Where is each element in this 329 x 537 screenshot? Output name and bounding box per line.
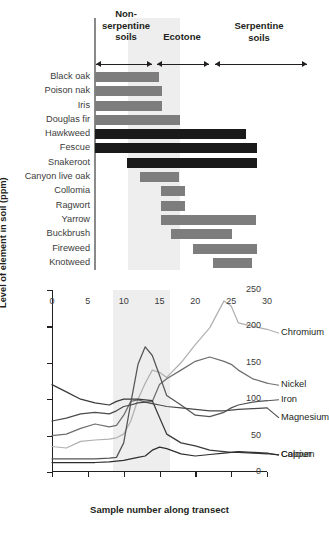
y-tick-label: 200 — [231, 320, 261, 330]
y-tick-label: 250 — [231, 284, 261, 294]
species-label: Iris — [0, 100, 90, 110]
x-tick — [52, 472, 53, 477]
series-line-copper — [52, 447, 267, 462]
x-tick — [88, 472, 89, 477]
y-tick — [47, 326, 52, 327]
species-distribution-panel: Non-serpentinesoils Ecotone Serpentineso… — [0, 0, 322, 280]
x-tick — [195, 472, 196, 477]
species-label: Yarrow — [0, 214, 90, 224]
species-row: Black oak — [0, 70, 322, 84]
species-row: Douglas fir — [0, 113, 322, 127]
series-leader-chromium — [267, 329, 279, 333]
x-tick-label: 0 — [40, 296, 64, 306]
series-leader-nickel — [267, 383, 279, 385]
y-tick — [47, 436, 52, 437]
element-series-lines — [52, 290, 267, 472]
arrow-non-serpentine — [96, 64, 152, 65]
species-row: Fireweed — [0, 242, 322, 256]
zone-label-ecotone: Ecotone — [151, 31, 213, 43]
species-label: Fescue — [0, 142, 90, 152]
species-range-bar — [161, 215, 256, 225]
species-range-bar — [95, 143, 257, 153]
species-range-bar — [193, 244, 257, 254]
species-range-bar — [171, 229, 233, 239]
y-tick-label: 50 — [231, 430, 261, 440]
species-label: Black oak — [0, 71, 90, 81]
x-tick-label: 15 — [148, 296, 172, 306]
zone-extent-arrows — [95, 60, 317, 70]
species-row: Snakeroot — [0, 156, 322, 170]
element-level-panel: Level of element in soil (ppm) Sample nu… — [0, 282, 322, 537]
series-label-nickel: Nickel — [281, 379, 306, 389]
species-range-bar — [95, 86, 162, 96]
x-tick-label: 20 — [183, 296, 207, 306]
y-tick — [47, 399, 52, 400]
species-row: Collomia — [0, 184, 322, 198]
series-label-iron: Iron — [281, 394, 297, 404]
zone-label-non-serpentine: Non-serpentinesoils — [95, 8, 157, 43]
species-label: Hawkweed — [0, 128, 90, 138]
species-label: Ragwort — [0, 200, 90, 210]
species-row: Knotweed — [0, 256, 322, 270]
x-tick-label: 30 — [255, 296, 279, 306]
series-label-chromium: Chromium — [281, 327, 324, 337]
species-range-bar — [140, 172, 179, 182]
x-tick-label: 25 — [219, 296, 243, 306]
x-tick — [267, 472, 268, 477]
x-tick — [231, 472, 232, 477]
x-tick-label: 10 — [112, 296, 136, 306]
arrow-serpentine — [215, 64, 307, 65]
y-tick-label: 0 — [231, 466, 261, 476]
species-label: Poison nak — [0, 85, 90, 95]
species-row: Buckbrush — [0, 227, 322, 241]
x-tick — [160, 472, 161, 477]
species-label: Canyon live oak — [0, 171, 90, 181]
species-label: Buckbrush — [0, 228, 90, 238]
y-tick — [47, 363, 52, 364]
y-tick-label: 150 — [231, 357, 261, 367]
species-row: Poison nak — [0, 84, 322, 98]
zone-header: Non-serpentinesoils Ecotone Serpentineso… — [95, 8, 317, 66]
x-tick-label: 5 — [76, 296, 100, 306]
series-leader-iron — [267, 400, 279, 401]
species-range-bar — [95, 72, 159, 82]
species-range-bar — [127, 158, 257, 168]
species-row: Yarrow — [0, 213, 322, 227]
line-plot-area: 050100150200250051015202530 — [52, 290, 267, 472]
species-range-bar — [95, 101, 162, 111]
series-label-copper: Copper — [281, 449, 312, 459]
species-range-bar — [95, 115, 180, 125]
x-axis-title: Sample number along transect — [52, 504, 267, 515]
species-range-bar — [213, 258, 252, 268]
species-row: Hawkweed — [0, 127, 322, 141]
arrow-ecotone — [157, 64, 209, 65]
species-row: Fescue — [0, 141, 322, 155]
species-row: Canyon live oak — [0, 170, 322, 184]
series-label-magnesium: Magnesium — [281, 412, 329, 422]
species-label: Douglas fir — [0, 114, 90, 124]
x-tick — [124, 472, 125, 477]
y-tick-label: 100 — [231, 393, 261, 403]
species-range-bar — [95, 129, 246, 139]
zone-label-serpentine: Serpentinesoils — [213, 20, 305, 43]
y-axis-title: Level of element in soil (ppm) — [0, 177, 8, 308]
species-row: Iris — [0, 99, 322, 113]
species-label: Fireweed — [0, 243, 90, 253]
species-label: Collomia — [0, 185, 90, 195]
y-tick — [47, 290, 52, 291]
series-leader-magnesium — [267, 408, 279, 418]
species-range-bar — [161, 186, 185, 196]
species-range-bar — [161, 201, 185, 211]
species-bar-list: Black oakPoison nakIrisDouglas firHawkwe… — [0, 70, 322, 270]
species-label: Knotweed — [0, 257, 90, 267]
species-label: Snakeroot — [0, 157, 90, 167]
species-row: Ragwort — [0, 199, 322, 213]
